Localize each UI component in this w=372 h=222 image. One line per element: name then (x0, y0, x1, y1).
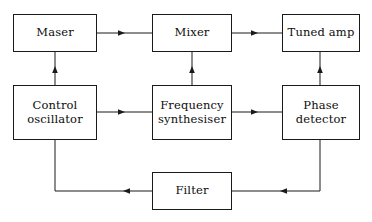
node-filter[interactable]: Filter (152, 172, 232, 210)
connector-phase-det-to-tuned-amp (317, 52, 323, 85)
connector-phase-det-to-filter (232, 140, 320, 194)
connector-control-osc-to-freq-synth (97, 109, 152, 115)
node-tuned-amp[interactable]: Tuned amp (282, 14, 360, 52)
connector-control-osc-to-maser (52, 52, 58, 85)
connector-freq-synth-to-phase-det (232, 109, 282, 115)
node-mixer-label: Mixer (173, 26, 212, 40)
node-frequency-synthesiser[interactable]: Frequency synthesiser (152, 85, 232, 140)
node-maser[interactable]: Maser (13, 14, 97, 52)
node-phase-detector-label: Phase detector (294, 99, 348, 126)
connector-filter-to-control-osc (55, 140, 152, 194)
connector-mixer-to-tuned-amp (232, 30, 282, 36)
node-tuned-amp-label: Tuned amp (286, 26, 357, 40)
node-phase-detector[interactable]: Phase detector (282, 85, 360, 140)
connector-freq-synth-to-mixer (189, 52, 195, 85)
node-control-oscillator[interactable]: Control oscillator (13, 85, 97, 140)
node-filter-label: Filter (173, 184, 210, 198)
connector-maser-to-mixer (97, 30, 152, 36)
node-maser-label: Maser (34, 26, 76, 40)
node-control-oscillator-label: Control oscillator (25, 99, 85, 126)
node-mixer[interactable]: Mixer (152, 14, 232, 52)
block-diagram: Maser Mixer Tuned amp Control oscillator… (0, 0, 372, 222)
node-frequency-synthesiser-label: Frequency synthesiser (156, 99, 228, 126)
